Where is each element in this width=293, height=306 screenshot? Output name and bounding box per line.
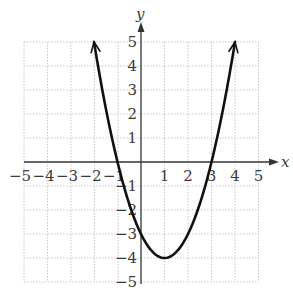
y-tick: −5 bbox=[115, 273, 137, 291]
y-tick: 5 bbox=[127, 33, 137, 51]
y-tick: 4 bbox=[127, 57, 137, 75]
y-tick: −3 bbox=[115, 225, 137, 243]
x-tick: 4 bbox=[230, 167, 240, 185]
x-tick: 1 bbox=[160, 167, 170, 185]
y-tick: 1 bbox=[127, 129, 137, 147]
y-axis-arrow-icon bbox=[138, 22, 145, 32]
x-tick: −4 bbox=[32, 167, 54, 185]
parabola-chart: x y −5 −4 −3 −2 −1 1 2 3 4 5 5 4 3 2 1 −… bbox=[0, 0, 293, 306]
y-tick: −4 bbox=[115, 249, 137, 267]
y-tick: 3 bbox=[127, 81, 137, 99]
x-tick: −3 bbox=[56, 167, 78, 185]
x-axis-arrow-icon bbox=[269, 159, 279, 166]
x-tick: 2 bbox=[183, 167, 193, 185]
y-axis-label: y bbox=[135, 5, 145, 23]
y-tick: 2 bbox=[127, 105, 137, 123]
x-tick: −5 bbox=[9, 167, 31, 185]
x-axis-label: x bbox=[281, 153, 290, 171]
x-tick: −2 bbox=[79, 167, 101, 185]
x-tick: 5 bbox=[254, 167, 264, 185]
